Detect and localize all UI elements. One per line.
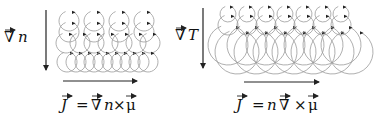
gradient-variable: n: [18, 28, 28, 46]
nabla-symbol: ∇: [175, 26, 185, 44]
gyration-orbit: [272, 31, 316, 74]
gradient-variable: T: [188, 26, 199, 44]
gyration-orbit: [59, 23, 79, 42]
gyration-orbit: [120, 53, 140, 72]
formula-cross: ×: [113, 96, 126, 114]
formula-eq: =: [252, 96, 265, 114]
formula-mu: μ: [126, 96, 136, 114]
formula-lhs: J: [58, 96, 68, 114]
gyration-orbit: [291, 31, 335, 74]
gyration-orbit: [109, 23, 129, 42]
gyration-orbit: [140, 34, 160, 53]
gyration-orbit: [134, 23, 154, 42]
formula-lhs: J: [233, 96, 243, 114]
formula-right: J = n ∇ × μ: [233, 96, 318, 114]
gyration-orbit: [109, 12, 129, 31]
gyration-orbit: [310, 31, 354, 74]
gyration-orbit: [253, 31, 297, 74]
formula-nabla: ∇: [279, 96, 289, 114]
gyration-orbit: [277, 6, 293, 22]
gyration-orbit: [234, 31, 278, 74]
gradient-label-left: ∇ n: [4, 28, 28, 46]
gyration-orbit: [296, 6, 312, 22]
gyration-orbit: [215, 31, 259, 74]
gyration-orbit: [59, 12, 79, 31]
gyration-orbit: [75, 53, 95, 72]
magnetization-current-diagram: ∇ n J = ∇ n × μ ∇ T J: [0, 0, 382, 119]
panel-temperature-gradient: ∇ T J = n ∇ × μ: [175, 5, 373, 114]
gyration-orbit: [239, 6, 255, 22]
gyration-orbit: [84, 23, 104, 42]
formula-eq: =: [76, 96, 89, 114]
panel-density-gradient: ∇ n J = ∇ n × μ: [4, 10, 160, 114]
gyration-orbits: [56, 11, 160, 72]
gyration-orbit: [102, 53, 122, 72]
gyration-orbit: [129, 53, 149, 72]
gyration-orbit: [57, 53, 77, 72]
nabla-symbol: ∇: [4, 28, 14, 46]
formula-n: n: [267, 96, 277, 114]
formula-left: J = ∇ n × μ: [58, 96, 136, 114]
gyration-orbit: [111, 53, 131, 72]
gradient-label-right: ∇ T: [175, 26, 199, 44]
gyration-orbits: [208, 5, 373, 74]
gyration-orbit: [84, 12, 104, 31]
gyration-orbit: [93, 53, 113, 72]
formula-mu: μ: [308, 96, 318, 114]
gyration-orbit: [134, 12, 154, 31]
gyration-orbit: [84, 53, 104, 72]
gyration-orbit: [333, 6, 349, 22]
gyration-orbit: [315, 6, 331, 22]
gyration-orbit: [66, 53, 86, 72]
gyration-orbit: [220, 6, 236, 22]
formula-nabla: ∇: [91, 96, 101, 114]
gyration-orbit: [138, 53, 158, 72]
gyration-orbit: [329, 31, 373, 74]
gyration-orbit: [258, 6, 274, 22]
formula-cross: ×: [294, 96, 307, 114]
